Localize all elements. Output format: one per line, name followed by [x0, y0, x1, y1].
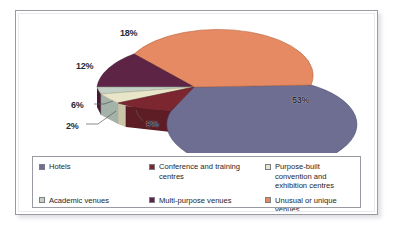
chart-figure-frame: 53% 18% 12% 6% 2% 9% Hotels Conference a…	[15, 10, 378, 215]
legend-item-hotels[interactable]: Hotels	[39, 162, 149, 191]
legend-swatch-icon	[265, 197, 271, 203]
slice-hotels[interactable]	[167, 85, 357, 153]
legend-item-unusual[interactable]: Unusual or unique venues	[265, 196, 354, 215]
legend-item-label: Conference and training centres	[159, 162, 265, 181]
legend-swatch-icon	[39, 164, 45, 170]
legend-swatch-icon	[149, 164, 155, 170]
legend-item-label: Academic venues	[49, 196, 109, 206]
pie-chart-svg	[16, 11, 377, 153]
data-label-purpose-built: 2%	[66, 121, 79, 131]
legend-swatch-icon	[149, 197, 155, 203]
legend-item-conference[interactable]: Conference and training centres	[149, 162, 265, 191]
legend-item-label: Purpose-built convention and exhibition …	[275, 162, 354, 191]
data-label-academic: 6%	[71, 100, 84, 110]
legend-item-label: Unusual or unique venues	[275, 196, 354, 215]
legend-swatch-icon	[39, 197, 45, 203]
slice-side-purpose-built	[118, 103, 126, 127]
legend-swatch-icon	[265, 164, 271, 170]
chart-legend: Hotels Conference and training centres P…	[32, 156, 361, 208]
legend-item-label: Hotels	[49, 162, 71, 172]
legend-item-purpose-built[interactable]: Purpose-built convention and exhibition …	[265, 162, 354, 191]
data-label-hotels: 53%	[292, 95, 309, 105]
data-label-conference: 9%	[146, 119, 159, 129]
legend-row: Academic venues Multi-purpose venues Unu…	[39, 196, 354, 215]
data-label-unusual: 18%	[120, 28, 137, 38]
legend-item-multi-purpose[interactable]: Multi-purpose venues	[149, 196, 265, 215]
data-label-multi-purpose: 12%	[76, 61, 93, 71]
legend-item-label: Multi-purpose venues	[159, 196, 232, 206]
legend-item-academic[interactable]: Academic venues	[39, 196, 149, 215]
pie-chart-area: 53% 18% 12% 6% 2% 9%	[16, 11, 377, 151]
legend-row: Hotels Conference and training centres P…	[39, 162, 354, 191]
